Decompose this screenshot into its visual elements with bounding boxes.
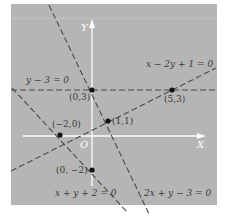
point-label-0-neg2: (0, −2) [56,166,88,175]
diagram-canvas [0,0,225,219]
coordinate-diagram: Y X O y − 3 = 0 x − 2y + 1 = 0 x + y + 2… [0,0,225,219]
y-axis-label: Y [81,23,88,33]
point-0-3 [89,87,94,92]
line-label-y-minus-3: y − 3 = 0 [26,76,69,85]
origin-label: O [80,140,88,150]
point-label-5-3: (5,3) [164,95,185,104]
point-5-3 [169,87,174,92]
point-label-1-1: (1,1) [112,117,133,126]
point-label-0-3: (0,3) [69,93,90,102]
point-neg2-0 [57,132,62,137]
point-0-neg2 [89,167,94,172]
line-label-x-plus-y-plus-2: x + y + 2 = 0 [55,189,116,198]
point-label-neg2-0: (−2,0) [52,120,81,129]
line-label-2x-plus-y-minus-3: 2x + y − 3 = 0 [144,189,211,198]
line-label-x-minus-2y-plus-1: x − 2y + 1 = 0 [146,60,213,69]
plot-background [11,4,217,205]
x-axis-label: X [197,140,204,150]
point-1-1 [105,118,110,123]
background-band [11,17,217,20]
